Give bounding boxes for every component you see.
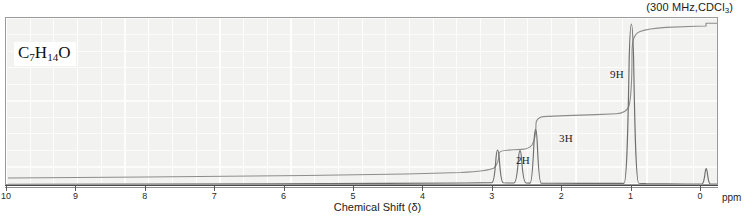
integral-label-3h: 3H: [559, 132, 573, 144]
nmr-spectrum-figure: (300 MHz,CDCl3) C7H14O 2H 3H 9H 10987654…: [0, 0, 755, 217]
x-axis-title: Chemical Shift (δ): [0, 201, 755, 213]
acquisition-conditions-label: (300 MHz,CDCl3): [646, 1, 733, 15]
x-axis-tick-label-4: 4: [420, 191, 425, 201]
x-axis-line-secondary: [5, 187, 718, 188]
conditions-suffix: ): [729, 1, 733, 13]
x-axis-line: [5, 185, 718, 186]
x-axis-tick-label-3: 3: [489, 191, 494, 201]
conditions-prefix: (300 MHz,CDCl: [646, 1, 724, 13]
integral-label-9h: 9H: [610, 68, 624, 80]
x-axis-tick-label-5: 5: [350, 191, 355, 201]
plot-frame: C7H14O: [5, 17, 718, 185]
formula-hydrogen-count: 14: [47, 51, 58, 63]
spectrum-trace: [8, 24, 717, 184]
x-axis-tick-label-2: 2: [559, 191, 564, 201]
formula-carbon: C: [18, 43, 29, 62]
formula-oxygen: O: [58, 43, 70, 62]
molecular-formula-label: C7H14O: [14, 42, 76, 66]
integral-label-2h: 2H: [516, 154, 530, 166]
integral-trace: [8, 23, 717, 178]
formula-hydrogen: H: [35, 43, 47, 62]
x-axis-tick-label-9: 9: [73, 191, 78, 201]
x-axis-tick-label-8: 8: [142, 191, 147, 201]
x-axis-tick-label-1: 1: [628, 191, 633, 201]
x-axis-tick-label-10: 10: [1, 191, 11, 201]
x-axis-tick-label-0: 0: [697, 191, 702, 201]
x-axis-tick-label-7: 7: [212, 191, 217, 201]
spectrum-traces: [6, 18, 718, 185]
x-axis-tick-label-6: 6: [281, 191, 286, 201]
